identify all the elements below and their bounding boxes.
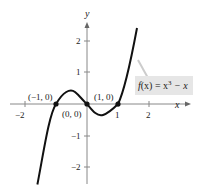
x-axis-arrow-icon [185,102,191,107]
y-tick-label: 1 [76,67,81,77]
x-tick-label: −2 [15,110,25,120]
function-label: f(x) = x3 − x [138,79,188,92]
y-tick-label: 2 [76,36,81,46]
y-tick-label: −1 [71,131,81,141]
intercept-point [115,101,120,106]
point-label: (1, 0) [94,92,114,102]
point-label: (0, 0) [62,109,82,119]
x-axis-label: x [174,99,180,110]
x-tick-label: 1 [115,110,120,120]
x-tick-label: 2 [146,110,151,120]
y-tick-label: −2 [71,162,81,172]
y-axis-label: y [84,8,90,19]
intercept-point [84,101,89,106]
cubic-function-graph: −2 1 2 2 1 −1 −2 x y (−1, 0) (0, 0) (1, … [0,0,199,192]
y-axis-arrow-icon [85,22,90,28]
point-label: (−1, 0) [28,92,53,102]
intercept-point [53,101,58,106]
label-leader-line [138,60,148,78]
